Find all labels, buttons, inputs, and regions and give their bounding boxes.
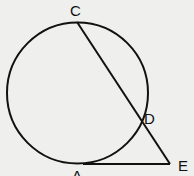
label-D: D: [144, 111, 155, 126]
label-C: C: [70, 3, 81, 18]
secant-CE: [77, 22, 170, 164]
circle: [7, 23, 148, 164]
label-E: E: [178, 158, 188, 173]
label-A: A: [72, 168, 82, 176]
geometry-figure: [0, 0, 194, 176]
